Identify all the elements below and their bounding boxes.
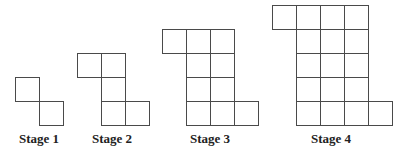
square-cell: [321, 30, 345, 54]
square-cell: [369, 102, 393, 126]
stage-1-figure: [16, 78, 64, 126]
square-cell: [102, 102, 126, 126]
square-cell: [187, 54, 211, 78]
square-cell: [126, 102, 150, 126]
stage-1-label: Stage 1: [19, 131, 59, 147]
square-cell: [297, 30, 321, 54]
square-cell: [345, 54, 369, 78]
square-cell: [297, 78, 321, 102]
square-cell: [187, 102, 211, 126]
square-cell: [297, 54, 321, 78]
square-cell: [273, 6, 297, 30]
stage-4-label: Stage 4: [311, 131, 351, 147]
stage-3-figure: [163, 30, 259, 126]
square-cell: [321, 102, 345, 126]
square-cell: [235, 102, 259, 126]
square-cell: [297, 6, 321, 30]
square-cell: [187, 78, 211, 102]
square-cell: [40, 102, 64, 126]
square-cell: [321, 54, 345, 78]
square-cell: [211, 54, 235, 78]
square-cell: [321, 78, 345, 102]
square-cell: [321, 6, 345, 30]
square-cell: [163, 30, 187, 54]
square-cell: [16, 78, 40, 102]
square-cell: [345, 6, 369, 30]
stage-2-figure: [78, 54, 150, 126]
square-cell: [211, 78, 235, 102]
square-cell: [102, 54, 126, 78]
stage-4-figure: [273, 6, 393, 126]
stage-2-label: Stage 2: [92, 131, 132, 147]
square-cell: [345, 102, 369, 126]
square-cell: [78, 54, 102, 78]
square-cell: [297, 102, 321, 126]
stage-3-label: Stage 3: [190, 131, 230, 147]
square-cell: [187, 30, 211, 54]
square-cell: [102, 78, 126, 102]
square-cell: [345, 78, 369, 102]
square-cell: [345, 30, 369, 54]
square-cell: [211, 30, 235, 54]
square-cell: [211, 102, 235, 126]
